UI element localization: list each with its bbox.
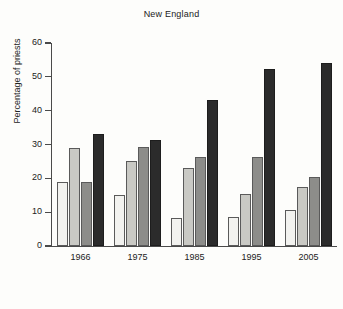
bar-1966-series-4 [93, 134, 105, 246]
y-tick-label: 0 [14, 240, 42, 250]
y-tick-mark [45, 178, 51, 179]
y-tick-label: 30 [14, 139, 42, 149]
y-axis-label: Percentage of priests [12, 6, 22, 156]
bar-1985-series-2 [183, 168, 195, 246]
bar-2005-series-2 [297, 187, 309, 246]
chart-title: New England [0, 9, 343, 19]
y-tick-mark [45, 212, 51, 213]
x-tick-label: 1995 [222, 252, 282, 262]
bar-1975-series-1 [114, 195, 126, 246]
bar-1995-series-1 [228, 217, 240, 246]
bar-2005-series-4 [321, 63, 333, 246]
x-tick-label: 1975 [108, 252, 168, 262]
y-tick-mark [45, 110, 51, 111]
bar-1985-series-3 [195, 157, 207, 246]
bar-1975-series-4 [150, 140, 162, 246]
y-tick-label: 60 [14, 37, 42, 47]
bar-1966-series-3 [81, 182, 93, 246]
bar-1985-series-1 [171, 218, 183, 246]
y-tick-label: 40 [14, 105, 42, 115]
y-tick-label: 10 [14, 206, 42, 216]
x-tick-label: 2005 [279, 252, 339, 262]
y-tick-mark [45, 144, 51, 145]
y-tick-label: 50 [14, 71, 42, 81]
y-tick-mark [45, 76, 51, 77]
bar-1975-series-3 [138, 147, 150, 246]
y-tick-mark [45, 42, 51, 43]
bar-2005-series-3 [309, 177, 321, 246]
bar-1975-series-2 [126, 161, 138, 246]
bar-2005-series-1 [285, 210, 297, 246]
y-tick-mark [45, 245, 51, 246]
bar-1966-series-2 [69, 148, 81, 246]
chart-figure: New England Percentage of priests 010203… [0, 0, 343, 309]
y-tick-label: 20 [14, 172, 42, 182]
bar-1995-series-4 [264, 69, 276, 246]
x-tick-label: 1966 [51, 252, 111, 262]
bar-1995-series-2 [240, 194, 252, 246]
bar-1995-series-3 [252, 157, 264, 246]
x-tick-label: 1985 [165, 252, 225, 262]
bar-1966-series-1 [57, 182, 69, 246]
bar-1985-series-4 [207, 100, 219, 246]
plot-area [52, 43, 337, 246]
